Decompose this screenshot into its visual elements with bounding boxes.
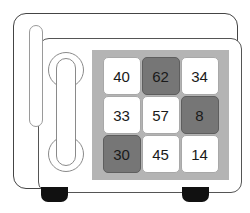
keypad-key[interactable]: 62 [142,57,180,95]
keypad-key[interactable]: 14 [181,135,219,173]
keypad-key[interactable]: 34 [181,57,219,95]
keypad-grid: 40 62 34 33 57 8 30 45 14 [103,57,219,173]
keypad-key[interactable]: 33 [103,96,141,134]
foot-right [182,187,209,202]
safe-body: 40 62 34 33 57 8 30 45 14 [13,13,238,189]
keypad-key[interactable]: 40 [103,57,141,95]
keypad-key[interactable]: 8 [181,96,219,134]
keypad-key[interactable]: 30 [103,135,141,173]
handle-bar-inner [29,25,43,127]
foot-left [41,187,68,202]
keypad-key[interactable]: 57 [142,96,180,134]
keypad-panel: 40 62 34 33 57 8 30 45 14 [92,50,229,180]
keypad-key[interactable]: 45 [142,135,180,173]
handle-bar [56,58,76,166]
safe-illustration: 40 62 34 33 57 8 30 45 14 [0,0,250,213]
door-handle[interactable] [44,50,88,174]
